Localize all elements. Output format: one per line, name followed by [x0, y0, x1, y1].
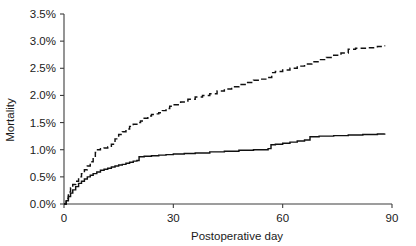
- series-dashed-curve: [64, 45, 385, 204]
- x-axis: 0306090: [61, 204, 399, 224]
- x-tick-label: 60: [276, 212, 289, 224]
- series-layer: [64, 45, 385, 204]
- y-tick-label: 2.0%: [30, 89, 56, 101]
- chart-figure: 0.0%0.5%1.0%1.5%2.0%2.5%3.0%3.5% 0306090…: [0, 0, 416, 246]
- y-tick-label: 0.5%: [30, 171, 56, 183]
- mortality-line-chart: 0.0%0.5%1.0%1.5%2.0%2.5%3.0%3.5% 0306090…: [0, 0, 416, 246]
- x-axis-title: Postoperative day: [191, 230, 283, 242]
- x-tick-label: 0: [61, 212, 67, 224]
- y-tick-label: 2.5%: [30, 62, 56, 74]
- x-tick-label: 90: [386, 212, 399, 224]
- y-tick-label: 1.5%: [30, 117, 56, 129]
- y-tick-label: 3.5%: [30, 8, 56, 20]
- y-axis-title: Mortality: [4, 98, 16, 142]
- y-tick-label: 3.0%: [30, 35, 56, 47]
- y-tick-label: 0.0%: [30, 198, 56, 210]
- y-tick-label: 1.0%: [30, 144, 56, 156]
- x-tick-label: 30: [167, 212, 180, 224]
- y-axis: 0.0%0.5%1.0%1.5%2.0%2.5%3.0%3.5%: [30, 8, 64, 210]
